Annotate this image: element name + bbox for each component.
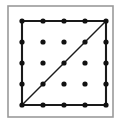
geoboard-figure <box>0 0 121 125</box>
peg-dot <box>82 39 87 44</box>
peg-dot <box>61 39 66 44</box>
peg-dot <box>40 39 45 44</box>
peg-dot <box>61 18 66 23</box>
peg-dot <box>82 18 87 23</box>
peg-dot <box>82 81 87 86</box>
peg-dot <box>103 18 108 23</box>
peg-dot <box>40 81 45 86</box>
peg-dot <box>103 39 108 44</box>
peg-dot <box>82 60 87 65</box>
peg-dot <box>40 60 45 65</box>
peg-dot <box>19 18 24 23</box>
peg-dot <box>103 81 108 86</box>
peg-dot <box>103 60 108 65</box>
peg-dot <box>40 102 45 107</box>
peg-dot <box>19 39 24 44</box>
peg-dot <box>19 81 24 86</box>
peg-dot <box>103 102 108 107</box>
peg-dot <box>19 102 24 107</box>
peg-dot <box>19 60 24 65</box>
peg-dot <box>40 18 45 23</box>
peg-dot <box>61 81 66 86</box>
peg-dot <box>61 60 66 65</box>
peg-dot <box>61 102 66 107</box>
peg-dot <box>82 102 87 107</box>
figure-canvas <box>0 0 121 125</box>
